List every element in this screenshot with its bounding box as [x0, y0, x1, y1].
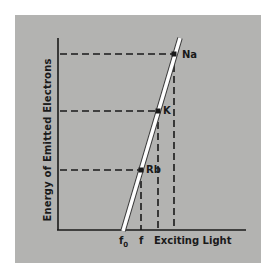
f0-subscript: 0: [123, 241, 128, 249]
label-k: K: [163, 106, 171, 116]
point-na: [172, 52, 177, 57]
label-rb: Rb: [146, 165, 161, 175]
tick-label-f: f: [139, 236, 143, 246]
energy-line: [123, 38, 180, 231]
label-na: Na: [182, 50, 197, 60]
point-rb: [139, 168, 144, 173]
x-axis-label: Exciting Light: [154, 236, 231, 246]
y-axis-label: Energy of Emitted Electrons: [42, 58, 53, 221]
point-k: [156, 109, 161, 114]
tick-label-f0: f0: [119, 236, 128, 249]
